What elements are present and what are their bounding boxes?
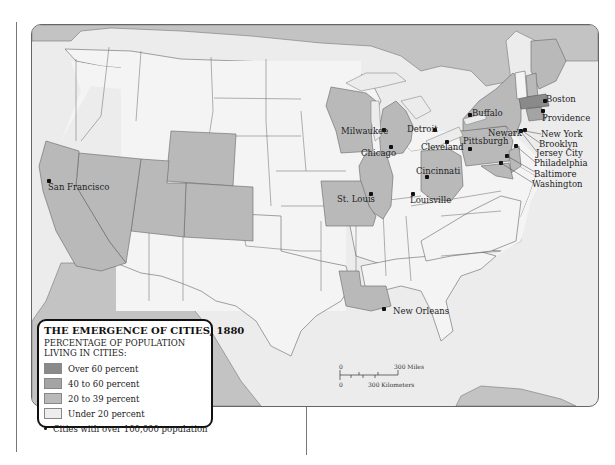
legend-label: Under 20 percent <box>68 409 145 419</box>
scale-zero-miles: 0 <box>339 363 343 370</box>
legend-item-40-to-60: 40 to 60 percent <box>44 376 206 391</box>
scale-miles-label: 300 Miles <box>394 363 424 370</box>
swatch-over-60 <box>44 363 62 374</box>
legend-label: 40 to 60 percent <box>68 379 140 389</box>
city-dot-icon <box>44 427 47 430</box>
legend-item-under-20: Under 20 percent <box>44 406 206 421</box>
legend-label: Cities with over 100,000 population <box>53 424 208 434</box>
legend-label: Over 60 percent <box>68 364 138 374</box>
legend-item-20-to-39: 20 to 39 percent <box>44 391 206 406</box>
swatch-under-20 <box>44 408 62 419</box>
scale-zero-km: 0 <box>339 381 343 388</box>
swatch-20-to-39 <box>44 393 62 404</box>
map-legend: THE EMERGENCE OF CITIES, 1880 PERCENTAGE… <box>37 319 213 428</box>
legend-subtitle-line2: LIVING IN CITIES: <box>44 348 206 358</box>
swatch-40-to-60 <box>44 378 62 389</box>
legend-label: 20 to 39 percent <box>68 394 140 404</box>
legend-item-city-marker: Cities with over 100,000 population <box>44 421 206 436</box>
legend-subtitle-line1: PERCENTAGE OF POPULATION <box>44 338 206 348</box>
scale-km-label: 300 Kilometers <box>368 381 414 388</box>
legend-title: THE EMERGENCE OF CITIES, 1880 <box>44 325 206 336</box>
legend-item-over-60: Over 60 percent <box>44 361 206 376</box>
legend-subtitle: PERCENTAGE OF POPULATION LIVING IN CITIE… <box>44 338 206 358</box>
